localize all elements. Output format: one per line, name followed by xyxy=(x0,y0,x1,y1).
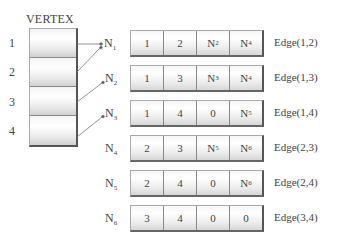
node-cell: 1 xyxy=(131,101,164,125)
node-cell: 2 xyxy=(131,136,164,160)
node-cell: 2 xyxy=(164,31,197,55)
edge-node-row-1: 1 2 N2 N4 xyxy=(130,30,264,57)
node-cell: 3 xyxy=(164,66,197,90)
node-cell: 4 xyxy=(164,101,197,125)
edge-label-5: Edge(2,4) xyxy=(274,176,318,188)
node-cell: 0 xyxy=(230,206,262,230)
node-label-n4: N4 xyxy=(105,141,117,157)
edge-node-row-6: 3 4 0 0 xyxy=(130,205,264,232)
node-cell: 3 xyxy=(164,136,197,160)
node-label-n1: N1 xyxy=(104,36,116,52)
node-cell: 0 xyxy=(197,101,230,125)
edge-label-4: Edge(2,3) xyxy=(274,141,318,153)
node-cell: 0 xyxy=(197,171,230,195)
node-cell: N3 xyxy=(197,66,230,90)
edge-node-row-2: 1 3 N3 N4 xyxy=(130,65,264,92)
edge-label-2: Edge(1,3) xyxy=(274,71,318,83)
edge-label-3: Edge(1,4) xyxy=(274,106,318,118)
node-cell: N4 xyxy=(230,66,262,90)
node-cell: 1 xyxy=(131,31,164,55)
edge-node-row-3: 1 4 0 N5 xyxy=(130,100,264,127)
node-cell: 4 xyxy=(164,206,197,230)
node-label-n5: N5 xyxy=(105,176,117,192)
node-cell: N5 xyxy=(197,136,230,160)
node-cell: N2 xyxy=(197,31,230,55)
node-cell: N5 xyxy=(230,101,262,125)
edge-label-1: Edge(1,2) xyxy=(274,36,318,48)
node-cell: N4 xyxy=(230,31,262,55)
node-cell: 4 xyxy=(164,171,197,195)
edge-node-row-5: 2 4 0 N6 xyxy=(130,170,264,197)
node-label-n6: N6 xyxy=(105,211,117,227)
node-cell: 2 xyxy=(131,171,164,195)
node-cell: 1 xyxy=(131,66,164,90)
node-label-n3: N3 xyxy=(105,106,117,122)
node-cell: 3 xyxy=(131,206,164,230)
node-cell: N6 xyxy=(230,171,262,195)
node-label-n2: N2 xyxy=(105,71,117,87)
node-cell: 0 xyxy=(197,206,230,230)
edge-label-6: Edge(3,4) xyxy=(274,211,318,223)
node-cell: N6 xyxy=(230,136,262,160)
edge-node-row-4: 2 3 N5 N6 xyxy=(130,135,264,162)
